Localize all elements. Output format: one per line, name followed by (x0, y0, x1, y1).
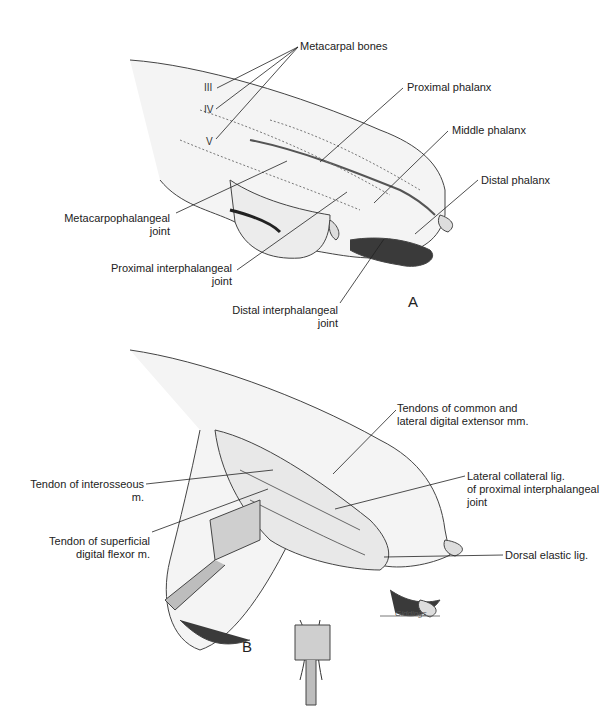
label-distal-phalanx: Distal phalanx (481, 174, 550, 187)
label-proximal-phalanx: Proximal phalanx (407, 81, 491, 94)
label-metacarpal-v: V (206, 136, 213, 147)
label-lateral-collateral-ligament: Lateral collateral lig. of proximal inte… (467, 470, 599, 509)
label-interosseous-tendon: Tendon of interosseous m. (20, 478, 144, 504)
label-metacarpophalangeal-joint: Metacarpophalangeal joint (36, 212, 170, 238)
label-distal-interphalangeal-joint: Distal interphalangeal joint (220, 304, 338, 330)
label-extensor-tendons: Tendons of common and lateral digital ex… (397, 402, 528, 428)
panel-letter-b: B (242, 638, 252, 655)
label-proximal-interphalangeal-joint: Proximal interphalangeal joint (100, 262, 232, 288)
label-metacarpal-iii: III (204, 82, 212, 93)
artist-signature: Giddings (395, 607, 427, 620)
label-metacarpal-iv: IV (204, 104, 213, 115)
label-middle-phalanx: Middle phalanx (452, 124, 526, 137)
label-dorsal-elastic-ligament: Dorsal elastic lig. (505, 549, 588, 562)
anatomical-illustration (0, 0, 616, 715)
label-metacarpal-bones: Metacarpal bones (300, 40, 387, 53)
label-superficial-digital-flexor: Tendon of superficial digital flexor m. (46, 535, 150, 561)
panel-letter-a: A (408, 293, 418, 310)
paw-drawing-a (130, 60, 453, 266)
